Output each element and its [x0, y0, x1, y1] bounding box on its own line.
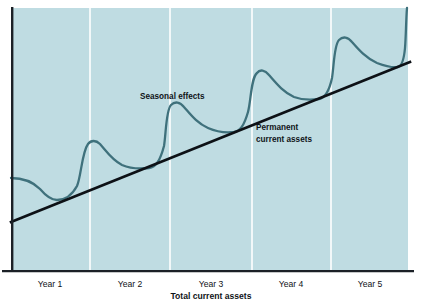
chart-container: Seasonal effects Permanent current asset… — [0, 0, 421, 304]
x-tick-label-year-1: Year 1 — [38, 279, 63, 289]
x-axis-title: Total current assets — [170, 291, 251, 301]
x-tick-label-year-3: Year 3 — [199, 279, 224, 289]
x-tick-label-year-2: Year 2 — [118, 279, 143, 289]
x-tick-label-year-4: Year 4 — [279, 279, 304, 289]
seasonal-effects-label: Seasonal effects — [140, 92, 205, 101]
x-tick-label-year-5: Year 5 — [358, 279, 383, 289]
x-axis-tick-labels: Year 1 Year 2 Year 3 Year 4 Year 5 — [38, 279, 383, 289]
current-assets-chart: Seasonal effects Permanent current asset… — [0, 0, 421, 304]
permanent-current-assets-label-line1: Permanent — [256, 123, 299, 132]
plot-background — [12, 8, 409, 270]
permanent-current-assets-label-line2: current assets — [256, 135, 312, 144]
